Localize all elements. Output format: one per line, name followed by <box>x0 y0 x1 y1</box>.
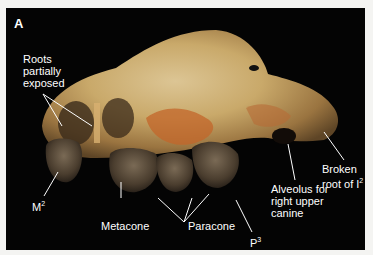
label-broken-root: Broken root of I2 <box>322 163 363 190</box>
label-m2: M2 <box>32 198 45 213</box>
figure-panel: A Roots partially exposed M2 Metacone Pa… <box>6 8 365 250</box>
label-metacone: Metacone <box>101 220 149 232</box>
label-roots: Roots partially exposed <box>23 53 65 89</box>
label-alveolus: Alveolus for right upper canine <box>271 183 328 219</box>
label-paracone: Paracone <box>188 220 235 232</box>
label-p3: P3 <box>250 234 261 249</box>
panel-letter: A <box>14 16 23 31</box>
